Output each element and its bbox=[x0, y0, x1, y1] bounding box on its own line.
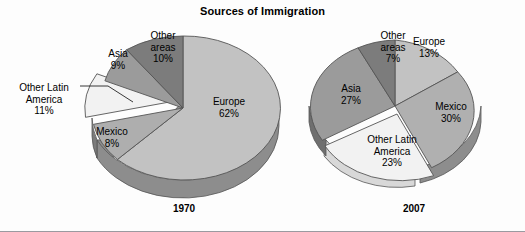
year-label-2007: 2007 bbox=[374, 203, 454, 214]
label-mexico-2007: Mexico 30% bbox=[425, 101, 477, 124]
label-asia-2007: Asia 27% bbox=[330, 83, 372, 106]
figure-panel: Sources of Immigration bbox=[0, 0, 525, 232]
year-label-1970: 1970 bbox=[144, 203, 224, 214]
label-other-areas-2007: Other areas 7% bbox=[371, 30, 415, 65]
label-other-latin-america-2007: Other Latin America 23% bbox=[355, 134, 429, 169]
charts-container: Europe 62% Mexico 8% Asia 9% Other areas… bbox=[0, 0, 525, 232]
